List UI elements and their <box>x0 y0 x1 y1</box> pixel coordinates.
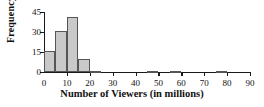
bar-75-80 <box>216 71 227 73</box>
x-tick-label-20: 20 <box>85 78 94 88</box>
plot-area: 0153045 0102030405060708090 <box>44 12 250 72</box>
y-axis-title: Frequency <box>5 0 16 54</box>
x-tick-label-60: 60 <box>177 78 186 88</box>
bar-0-5 <box>44 51 55 72</box>
x-tick-label-50: 50 <box>154 78 163 88</box>
x-tick-10 <box>67 72 68 76</box>
y-tick-label-15: 15 <box>32 47 41 57</box>
x-tick-label-40: 40 <box>131 78 140 88</box>
histogram-figure: Frequency 0153045 0102030405060708090 Nu… <box>0 0 264 107</box>
x-tick-label-70: 70 <box>200 78 209 88</box>
bar-55-60 <box>170 71 181 73</box>
x-tick-70 <box>204 72 205 76</box>
x-tick-label-10: 10 <box>62 78 71 88</box>
x-tick-30 <box>113 72 114 76</box>
x-tick-40 <box>136 72 137 76</box>
x-tick-label-80: 80 <box>223 78 232 88</box>
bar-5-10 <box>55 31 66 72</box>
x-axis-title: Number of Viewers (in millions) <box>0 88 264 99</box>
bar-45-50 <box>147 71 158 73</box>
x-tick-60 <box>181 72 182 76</box>
x-tick-label-30: 30 <box>108 78 117 88</box>
x-tick-label-90: 90 <box>246 78 255 88</box>
y-tick-label-0: 0 <box>37 67 42 77</box>
x-tick-90 <box>250 72 251 76</box>
bar-20-25 <box>90 71 101 73</box>
bar-15-20 <box>78 59 89 72</box>
x-tick-20 <box>90 72 91 76</box>
y-tick-label-45: 45 <box>32 7 41 17</box>
y-tick-label-30: 30 <box>32 27 41 37</box>
x-tick-50 <box>158 72 159 76</box>
x-tick-label-0: 0 <box>42 78 47 88</box>
bar-10-15 <box>67 17 78 72</box>
x-tick-80 <box>227 72 228 76</box>
